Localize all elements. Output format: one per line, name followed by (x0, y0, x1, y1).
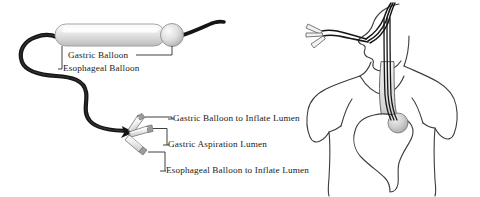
esophageal-balloon-highlight (62, 28, 158, 33)
neck-back (404, 36, 409, 66)
label-gastric-aspiration-lumen: Gastric Aspiration Lumen (168, 140, 267, 149)
sleeve-seam-right (423, 123, 435, 128)
label-gastric-balloon: Gastric Balloon (68, 51, 128, 60)
leader-gastric-balloon (136, 46, 172, 55)
device-distal-tip (180, 22, 224, 36)
torso-outline (307, 76, 360, 196)
gastric-balloon (161, 24, 184, 47)
label-esophageal-balloon: Esophageal Balloon (63, 64, 139, 73)
esophageal-balloon (55, 24, 165, 46)
medical-illustration-figure: Gastric Balloon Esophageal Balloon Gastr… (0, 0, 480, 197)
connector-port-esophageal-inflate (125, 135, 147, 155)
anatomy-group (306, 3, 457, 196)
label-gastric-balloon-inflate-lumen: Gastric Balloon to Inflate Lumen (173, 114, 300, 123)
leader-esophageal-balloon (58, 46, 62, 69)
connector-ports (121, 114, 153, 156)
sleeve-seam-left (329, 126, 341, 132)
label-esophageal-balloon-inflate-lumen: Esophageal Balloon to Inflate Lumen (166, 166, 309, 175)
gastric-balloon-in-stomach (388, 113, 408, 133)
neck-front (360, 62, 371, 76)
anatomy-external-connectors (306, 24, 325, 48)
chest-contour-right (412, 98, 423, 123)
inserted-tube (322, 3, 397, 120)
chest-contour-left (341, 99, 352, 126)
